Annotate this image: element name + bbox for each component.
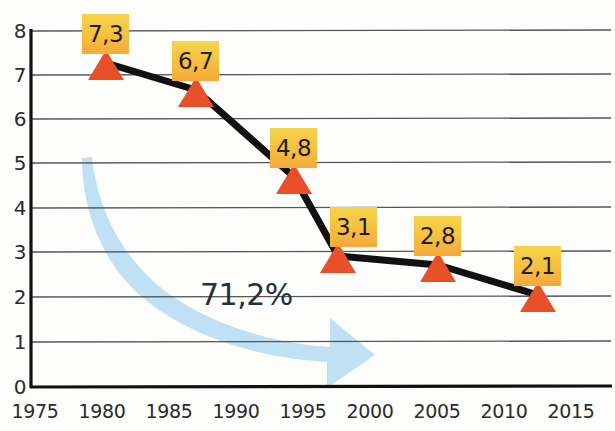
x-tick-label: 2005: [405, 400, 469, 422]
decline-percentage-annotation: 71,2%: [200, 277, 293, 312]
x-tick-label: 2010: [472, 400, 536, 422]
data-marker[interactable]: [88, 50, 124, 80]
y-tick-label: 2: [2, 285, 26, 309]
x-tick-label: 1985: [137, 400, 201, 422]
y-tick-label: 0: [2, 375, 26, 399]
y-tick-label: 3: [2, 240, 26, 264]
data-marker[interactable]: [420, 252, 456, 282]
x-tick-label: 1990: [204, 400, 268, 422]
data-point-label: 6,7: [172, 41, 219, 81]
data-markers: [0, 0, 615, 431]
y-tick-label: 5: [2, 151, 26, 175]
y-tick-label: 8: [2, 19, 26, 43]
x-tick-label: 1975: [3, 400, 67, 422]
data-point-label: 3,1: [330, 207, 377, 247]
decline-line-chart: 7,3 6,7 4,8 3,1 2,8 2,1 71,2% 8 7 6 5 4 …: [0, 0, 615, 431]
data-point-label: 2,8: [414, 216, 461, 256]
data-marker[interactable]: [320, 243, 356, 273]
y-tick-label: 1: [2, 330, 26, 354]
data-point-label: 2,1: [514, 246, 561, 286]
data-point-label: 7,3: [82, 14, 129, 54]
data-point-label: 4,8: [270, 128, 317, 168]
data-marker[interactable]: [520, 282, 556, 312]
y-tick-label: 7: [2, 63, 26, 87]
x-tick-label: 2015: [539, 400, 603, 422]
data-marker[interactable]: [276, 164, 312, 194]
y-tick-label: 4: [2, 196, 26, 220]
x-tick-label: 2000: [338, 400, 402, 422]
x-tick-label: 1995: [271, 400, 335, 422]
data-marker[interactable]: [178, 77, 214, 107]
x-tick-label: 1980: [70, 400, 134, 422]
plot-area: 7,3 6,7 4,8 3,1 2,8 2,1 71,2% 8 7 6 5 4 …: [0, 0, 615, 431]
y-tick-label: 6: [2, 107, 26, 131]
